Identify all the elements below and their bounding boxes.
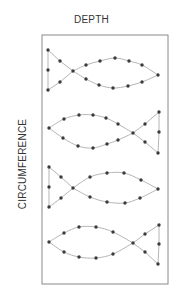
fish-diagram bbox=[0, 0, 183, 292]
data-point bbox=[156, 73, 159, 76]
fish-outline bbox=[49, 242, 133, 258]
data-point bbox=[62, 117, 65, 120]
data-point bbox=[47, 126, 50, 129]
data-point bbox=[88, 175, 91, 178]
data-point bbox=[98, 59, 101, 62]
data-point bbox=[62, 231, 65, 234]
data-point bbox=[111, 230, 114, 233]
data-point bbox=[58, 80, 61, 83]
data-point bbox=[113, 56, 116, 59]
data-point bbox=[105, 171, 108, 174]
data-point bbox=[138, 196, 141, 199]
data-point bbox=[131, 131, 134, 134]
data-point bbox=[77, 113, 80, 116]
data-point bbox=[62, 250, 65, 253]
fish-layer bbox=[46, 48, 160, 265]
data-point bbox=[157, 110, 160, 113]
fish-outline bbox=[49, 115, 133, 133]
data-point bbox=[71, 69, 74, 72]
data-point bbox=[88, 195, 91, 198]
data-point bbox=[127, 59, 130, 62]
data-point bbox=[156, 151, 159, 154]
data-point bbox=[111, 252, 114, 255]
data-point bbox=[156, 262, 159, 265]
data-point bbox=[116, 138, 119, 141]
data-point bbox=[143, 250, 146, 253]
data-point bbox=[139, 178, 142, 181]
data-point bbox=[84, 77, 87, 80]
data-point bbox=[84, 63, 87, 66]
data-point bbox=[157, 242, 160, 245]
data-point bbox=[105, 200, 108, 203]
data-point bbox=[77, 255, 80, 258]
data-point bbox=[59, 196, 62, 199]
data-point bbox=[156, 187, 159, 190]
diagram-frame bbox=[42, 35, 168, 284]
data-point bbox=[157, 223, 160, 226]
data-point bbox=[46, 68, 49, 71]
data-point bbox=[59, 175, 62, 178]
data-point bbox=[47, 205, 50, 208]
data-point bbox=[157, 130, 160, 133]
data-point bbox=[61, 136, 64, 139]
data-point bbox=[46, 48, 49, 51]
data-point bbox=[46, 88, 49, 91]
data-point bbox=[116, 122, 119, 125]
data-point bbox=[47, 165, 50, 168]
data-point bbox=[143, 122, 146, 125]
fish-outline bbox=[133, 112, 159, 133]
data-point bbox=[143, 140, 146, 143]
data-point bbox=[97, 83, 100, 86]
data-point bbox=[143, 232, 146, 235]
data-point bbox=[71, 186, 74, 189]
fish-outline bbox=[49, 226, 133, 243]
fish-1 bbox=[46, 48, 159, 91]
data-point bbox=[94, 225, 97, 228]
data-point bbox=[105, 142, 108, 145]
data-point bbox=[94, 256, 97, 259]
data-point bbox=[47, 240, 50, 243]
data-point bbox=[104, 116, 107, 119]
data-point bbox=[77, 225, 80, 228]
fish-4 bbox=[47, 223, 160, 265]
data-point bbox=[140, 63, 143, 66]
data-point bbox=[126, 84, 129, 87]
data-point bbox=[111, 86, 114, 89]
data-point bbox=[91, 113, 94, 116]
data-point bbox=[140, 80, 143, 83]
data-point bbox=[58, 59, 61, 62]
data-point bbox=[131, 241, 134, 244]
data-point bbox=[91, 146, 94, 149]
data-point bbox=[76, 144, 79, 147]
data-point bbox=[122, 171, 125, 174]
fish-outline bbox=[73, 188, 158, 203]
fish-2 bbox=[47, 110, 160, 154]
fish-outline bbox=[73, 172, 158, 189]
data-point bbox=[123, 201, 126, 204]
data-point bbox=[47, 185, 50, 188]
fish-3 bbox=[47, 165, 159, 208]
